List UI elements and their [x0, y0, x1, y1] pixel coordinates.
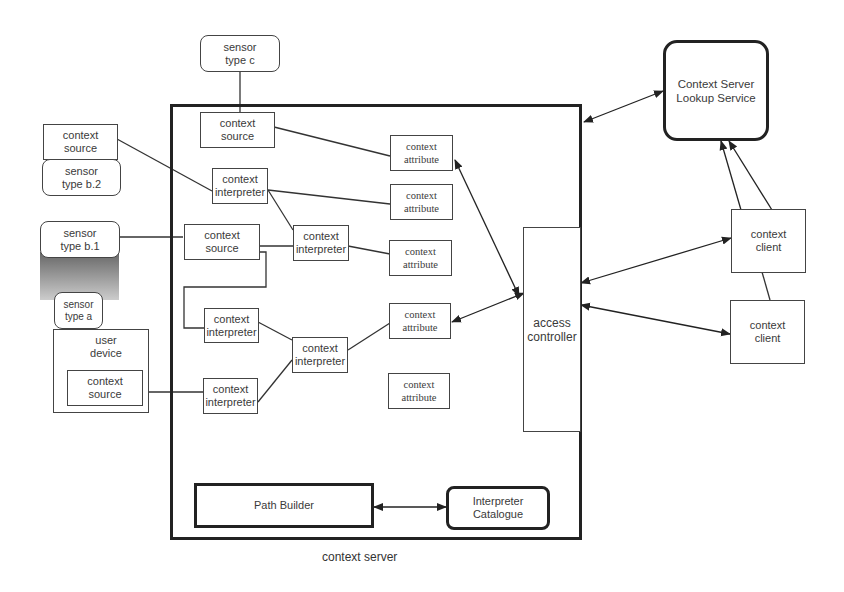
- context-source-mid[interactable]: context source: [184, 224, 260, 260]
- context-interpreter-3[interactable]: context interpreter: [204, 308, 259, 343]
- context-interpreter-4[interactable]: context interpreter: [292, 337, 348, 373]
- context-interpreter-5[interactable]: context interpreter: [203, 378, 258, 414]
- context-interpreter-2[interactable]: context interpreter: [293, 225, 349, 261]
- context-attribute-2[interactable]: context attribute: [390, 184, 453, 220]
- context-source-top[interactable]: context source: [200, 112, 275, 148]
- context-server-label: context server: [322, 550, 397, 564]
- sensor-type-b2[interactable]: sensor type b.2: [42, 159, 121, 196]
- context-server-lookup-service[interactable]: Context Server Lookup Service: [663, 40, 769, 141]
- access-controller[interactable]: access controller: [523, 227, 581, 432]
- context-attribute-4[interactable]: context attribute: [389, 303, 451, 339]
- context-client-1[interactable]: context client: [731, 209, 806, 273]
- interpreter-catalogue[interactable]: Interpreter Catalogue: [446, 486, 550, 530]
- external-context-source[interactable]: context source: [43, 124, 118, 160]
- path-builder[interactable]: Path Builder: [194, 483, 374, 528]
- sensor-type-b1[interactable]: sensor type b.1: [40, 221, 120, 258]
- context-attribute-5[interactable]: context attribute: [388, 373, 450, 409]
- context-attribute-1[interactable]: context attribute: [390, 135, 453, 171]
- context-interpreter-1[interactable]: context interpreter: [212, 168, 268, 204]
- sensor-type-a[interactable]: sensor type a: [54, 292, 103, 329]
- sensor-type-c[interactable]: sensor type c: [200, 35, 280, 72]
- context-client-2[interactable]: context client: [730, 300, 805, 364]
- device-context-source[interactable]: context source: [67, 370, 143, 406]
- context-attribute-3[interactable]: context attribute: [389, 240, 452, 276]
